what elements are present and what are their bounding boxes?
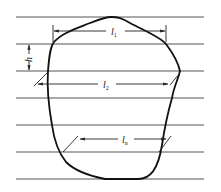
dimension-l2: l2 [34, 72, 180, 91]
dimension-h: h [23, 45, 34, 70]
section-diagram: l1 h l2 ln [0, 0, 221, 192]
label-ln: ln [122, 134, 128, 146]
label-l1: l1 [111, 26, 117, 38]
label-l2: l2 [103, 79, 109, 91]
label-h: h [23, 57, 34, 62]
dimension-ln: ln [63, 134, 171, 152]
horizontal-lines [16, 17, 204, 179]
